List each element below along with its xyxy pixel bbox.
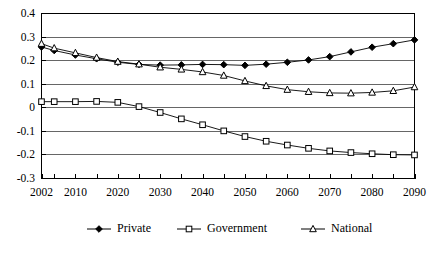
data-point-marker bbox=[221, 128, 227, 134]
plot-frame bbox=[42, 14, 415, 179]
legend-swatch-square-icon bbox=[176, 221, 202, 237]
series-national bbox=[38, 40, 418, 96]
data-point-marker bbox=[411, 37, 418, 44]
y-tick-label: 0.4 bbox=[0, 7, 35, 19]
series-line bbox=[42, 101, 415, 155]
data-point-marker bbox=[179, 116, 185, 122]
x-tick-label: 2080 bbox=[350, 186, 394, 198]
data-point-marker bbox=[327, 148, 333, 154]
data-point-marker bbox=[369, 44, 376, 51]
y-tick-label: 0.1 bbox=[0, 78, 35, 90]
series-line bbox=[42, 44, 415, 94]
data-point-marker bbox=[136, 104, 142, 110]
data-point-marker bbox=[348, 49, 355, 56]
data-point-marker bbox=[348, 150, 354, 156]
data-point-marker bbox=[39, 99, 45, 105]
legend-swatch-diamond-icon bbox=[86, 221, 112, 237]
legend-label: Private bbox=[117, 222, 151, 235]
legend-swatch-triangle-icon bbox=[300, 221, 326, 237]
y-tick-label: -0.1 bbox=[0, 125, 35, 137]
data-point-marker bbox=[369, 151, 375, 157]
data-point-marker bbox=[285, 142, 291, 148]
x-axis-ticks bbox=[43, 174, 416, 179]
x-tick-label: 2090 bbox=[393, 186, 431, 198]
data-point-marker bbox=[242, 134, 248, 140]
data-point-marker bbox=[186, 226, 192, 232]
data-point-marker bbox=[263, 61, 270, 68]
data-point-marker bbox=[412, 152, 418, 158]
x-tick-label: 2060 bbox=[265, 186, 309, 198]
y-tick-label: 0 bbox=[0, 101, 35, 113]
data-point-marker bbox=[157, 110, 163, 116]
data-point-marker bbox=[38, 40, 45, 46]
y-tick-label: 0.3 bbox=[0, 31, 35, 43]
data-point-marker bbox=[242, 62, 249, 69]
data-point-marker bbox=[200, 122, 206, 128]
series-private bbox=[38, 37, 418, 69]
x-tick-label: 2070 bbox=[308, 186, 352, 198]
x-tick-label: 2030 bbox=[138, 186, 182, 198]
data-point-marker bbox=[51, 99, 57, 105]
y-axis-ticks bbox=[42, 14, 46, 179]
data-point-marker bbox=[326, 53, 333, 60]
data-point-marker bbox=[96, 226, 103, 233]
x-tick-label: 2010 bbox=[53, 186, 97, 198]
data-point-marker bbox=[284, 59, 291, 66]
data-point-marker bbox=[94, 99, 100, 105]
data-point-marker bbox=[390, 40, 397, 47]
y-tick-label: -0.3 bbox=[0, 172, 35, 184]
data-point-marker bbox=[199, 61, 206, 68]
x-tick-label: 2050 bbox=[223, 186, 267, 198]
data-point-marker bbox=[263, 138, 269, 144]
y-tick-label: 0.2 bbox=[0, 54, 35, 66]
x-tick-label: 2040 bbox=[181, 186, 225, 198]
x-tick-label: 2020 bbox=[96, 186, 140, 198]
data-point-marker bbox=[306, 146, 312, 152]
legend-label: National bbox=[331, 222, 372, 235]
legend-label: Government bbox=[207, 222, 267, 235]
data-point-marker bbox=[305, 57, 312, 64]
data-point-marker bbox=[220, 61, 227, 68]
data-point-marker bbox=[73, 99, 79, 105]
y-tick-label: -0.2 bbox=[0, 148, 35, 160]
data-point-marker bbox=[115, 100, 121, 106]
data-point-marker bbox=[391, 152, 397, 158]
